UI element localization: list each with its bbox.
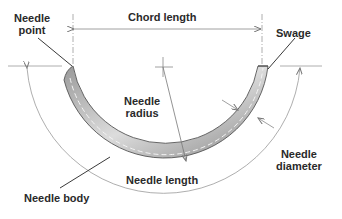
label-needle-body: Needle body — [24, 192, 89, 204]
label-swage: Swage — [276, 27, 311, 39]
needle-diameter-arrow-outer — [258, 118, 274, 128]
needle-diameter-arrow-inner — [222, 100, 238, 110]
needle-body-leader — [60, 157, 110, 188]
swage-leader — [268, 38, 295, 69]
label-needle-point: Needle point — [14, 12, 50, 36]
label-needle-length: Needle length — [126, 174, 198, 186]
label-needle-diameter: Needle diameter — [276, 148, 322, 172]
label-needle-radius: Needle radius — [124, 95, 160, 119]
needle-point-leader — [38, 38, 72, 66]
label-chord-length: Chord length — [128, 11, 196, 23]
